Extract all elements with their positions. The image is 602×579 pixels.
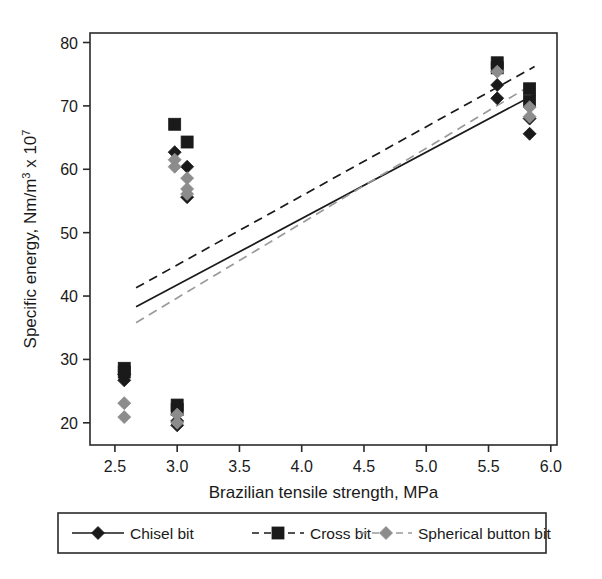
data-point-square xyxy=(181,136,193,148)
x-tick-label: 5.5 xyxy=(477,458,499,475)
plot-frame xyxy=(90,33,557,445)
y-tick-label: 80 xyxy=(60,35,78,52)
x-tick-label: 3.5 xyxy=(228,458,250,475)
series-chisel-bit xyxy=(118,78,536,431)
y-tick-label: 70 xyxy=(60,98,78,115)
data-point-square xyxy=(272,527,284,539)
data-point-square xyxy=(169,118,181,130)
data-point-square xyxy=(524,83,536,95)
trend-line xyxy=(136,94,535,306)
data-point-square xyxy=(118,366,130,378)
data-point-diamond xyxy=(118,411,131,424)
y-axis: 20304050607080 xyxy=(60,35,90,432)
y-tick-label: 40 xyxy=(60,288,78,305)
trend-line xyxy=(136,67,535,288)
scatter-plot: 2.53.03.54.04.55.05.56.0Brazilian tensil… xyxy=(0,0,602,579)
x-tick-label: 4.5 xyxy=(353,458,375,475)
x-tick-label: 6.0 xyxy=(540,458,562,475)
plot-area xyxy=(118,57,536,432)
x-tick-label: 4.0 xyxy=(291,458,313,475)
y-tick-label: 60 xyxy=(60,161,78,178)
y-tick-label: 50 xyxy=(60,225,78,242)
x-tick-label: 5.0 xyxy=(415,458,437,475)
trend-line xyxy=(136,83,535,323)
x-tick-label: 3.0 xyxy=(166,458,188,475)
y-tick-label: 20 xyxy=(60,415,78,432)
x-axis-title: Brazilian tensile strength, MPa xyxy=(209,483,439,502)
legend: Chisel bitCross bitSpherical button bit xyxy=(58,513,551,553)
data-point-diamond xyxy=(523,127,536,140)
figure-container: 2.53.03.54.04.55.05.56.0Brazilian tensil… xyxy=(0,0,602,579)
x-tick-label: 2.5 xyxy=(104,458,126,475)
y-tick-label: 30 xyxy=(60,351,78,368)
legend-label: Chisel bit xyxy=(130,525,194,542)
data-point-diamond xyxy=(523,110,536,123)
x-axis: 2.53.03.54.04.55.05.56.0 xyxy=(104,445,562,475)
series-cross-bit xyxy=(118,57,535,416)
data-point-diamond xyxy=(118,397,131,410)
y-axis-title: Specific energy, Nm/m3 x 107 xyxy=(20,130,40,349)
legend-label: Spherical button bit xyxy=(418,525,551,542)
